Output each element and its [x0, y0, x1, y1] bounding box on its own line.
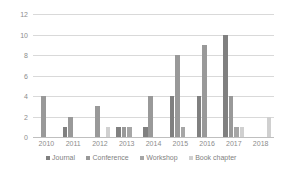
- y-tick-label: 10: [20, 31, 28, 38]
- legend-item[interactable]: Workshop: [140, 154, 178, 162]
- bar-slot: [181, 14, 186, 137]
- x-tick-label: 2010: [33, 139, 60, 151]
- bar-groups: [33, 14, 274, 137]
- legend-swatch-icon: [189, 156, 193, 160]
- bar: [95, 106, 100, 137]
- bar-slot: [127, 14, 132, 137]
- bar-chart: 024681012 201020112012201320142015201620…: [0, 0, 282, 175]
- legend-swatch-icon: [46, 156, 50, 160]
- legend-label: Conference: [93, 154, 129, 162]
- bar: [229, 96, 234, 137]
- bar-slot: [208, 14, 213, 137]
- y-tick-label: 8: [24, 52, 28, 59]
- bar-group: [113, 14, 140, 137]
- bar: [181, 127, 186, 137]
- bar-slot: [261, 14, 266, 137]
- bar-slot: [223, 14, 228, 137]
- y-tick-label: 2: [24, 113, 28, 120]
- bar-slot: [250, 14, 255, 137]
- y-tick-label: 4: [24, 93, 28, 100]
- bar: [267, 117, 272, 138]
- legend-swatch-icon: [140, 156, 144, 160]
- bar-slot: [148, 14, 153, 137]
- x-tick-label: 2018: [247, 139, 274, 151]
- y-tick-label: 6: [24, 72, 28, 79]
- bar-slot: [100, 14, 105, 137]
- y-tick-label: 12: [20, 11, 28, 18]
- bar-slot: [175, 14, 180, 137]
- bar: [122, 127, 127, 137]
- bar-slot: [89, 14, 94, 137]
- bar: [143, 127, 148, 137]
- x-tick-label: 2011: [60, 139, 87, 151]
- y-axis: 024681012: [0, 0, 33, 137]
- chart-legend: JournalConferenceWorkshopBook chapter: [0, 154, 282, 162]
- x-tick-label: 2017: [220, 139, 247, 151]
- bar-slot: [106, 14, 111, 137]
- bar-slot: [202, 14, 207, 137]
- y-tick-label: 0: [24, 134, 28, 141]
- bar-slot: [186, 14, 191, 137]
- legend-label: Workshop: [146, 154, 177, 162]
- bar: [223, 35, 228, 138]
- bar-group: [87, 14, 114, 137]
- bar-group: [220, 14, 247, 137]
- bar-slot: [36, 14, 41, 137]
- bar-slot: [79, 14, 84, 137]
- bar-slot: [159, 14, 164, 137]
- bar: [127, 127, 132, 137]
- bar: [170, 96, 175, 137]
- bar: [41, 96, 46, 137]
- bar-slot: [122, 14, 127, 137]
- bar-slot: [52, 14, 57, 137]
- legend-label: Journal: [52, 154, 75, 162]
- bar-slot: [41, 14, 46, 137]
- gridline-0: [33, 137, 274, 138]
- bar-slot: [267, 14, 272, 137]
- x-axis: 201020112012201320142015201620172018: [33, 139, 274, 151]
- plot-area: [33, 14, 274, 137]
- bar-slot: [229, 14, 234, 137]
- bar: [106, 127, 111, 137]
- bar: [68, 117, 73, 138]
- x-tick-label: 2016: [194, 139, 221, 151]
- bar: [202, 45, 207, 137]
- bar-slot: [74, 14, 79, 137]
- bar: [234, 127, 239, 137]
- x-tick-label: 2015: [167, 139, 194, 151]
- bar-group: [194, 14, 221, 137]
- bar-slot: [240, 14, 245, 137]
- bar-slot: [213, 14, 218, 137]
- bar-group: [247, 14, 274, 137]
- bar-group: [140, 14, 167, 137]
- bar-slot: [133, 14, 138, 137]
- bar-slot: [170, 14, 175, 137]
- bar-slot: [197, 14, 202, 137]
- bar-group: [33, 14, 60, 137]
- bar: [197, 96, 202, 137]
- legend-item[interactable]: Journal: [46, 154, 75, 162]
- bar-slot: [256, 14, 261, 137]
- bar-slot: [68, 14, 73, 137]
- x-tick-label: 2012: [87, 139, 114, 151]
- bar: [63, 127, 68, 137]
- x-tick-label: 2014: [140, 139, 167, 151]
- legend-swatch-icon: [86, 156, 90, 160]
- legend-item[interactable]: Conference: [86, 154, 129, 162]
- bar: [116, 127, 121, 137]
- bar-slot: [116, 14, 121, 137]
- bar: [175, 55, 180, 137]
- bar: [240, 127, 245, 137]
- bar-slot: [95, 14, 100, 137]
- bar-slot: [154, 14, 159, 137]
- legend-label: Book chapter: [195, 154, 236, 162]
- x-tick-label: 2013: [113, 139, 140, 151]
- bar-group: [167, 14, 194, 137]
- bar-slot: [234, 14, 239, 137]
- bar-slot: [47, 14, 52, 137]
- bar-slot: [143, 14, 148, 137]
- legend-item[interactable]: Book chapter: [189, 154, 237, 162]
- bar-slot: [63, 14, 68, 137]
- bar: [148, 96, 153, 137]
- bar-group: [60, 14, 87, 137]
